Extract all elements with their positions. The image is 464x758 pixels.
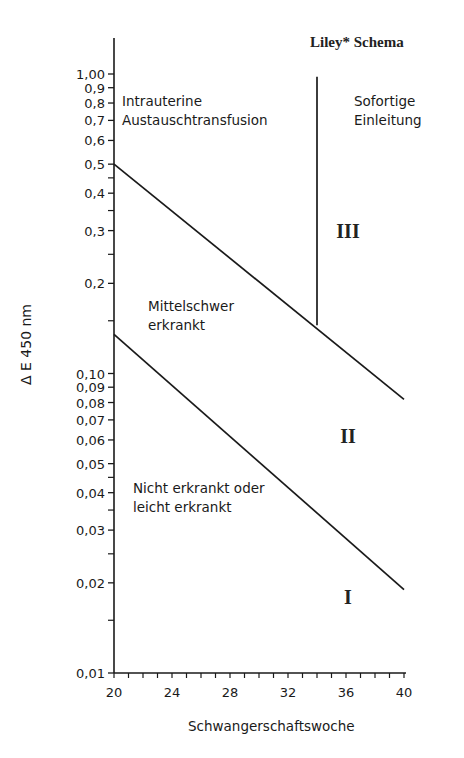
y-tick-label: 0,08 — [76, 396, 105, 411]
x-tick-label: 40 — [396, 685, 413, 700]
region-label-sofortige-einleitung: Sofortige Einleitung — [354, 92, 422, 130]
y-tick-label: 0,7 — [84, 113, 105, 128]
x-tick-label: 24 — [164, 685, 181, 700]
region-label-mittelschwer: Mittelschwer erkrankt — [148, 297, 234, 335]
x-tick-label: 28 — [222, 685, 239, 700]
y-tick-label: 0,6 — [84, 133, 105, 148]
upper-boundary-line — [114, 164, 404, 399]
region-label-intrauterine: Intrauterine Austauschtransfusion — [122, 92, 268, 130]
y-tick-label: 0,5 — [84, 157, 105, 172]
y-tick-label: 0,09 — [76, 380, 105, 395]
y-tick-label: 0,4 — [84, 186, 105, 201]
y-tick-label: 0,04 — [76, 486, 105, 501]
region-label-nicht-erkrankt: Nicht erkrankt oder leicht erkrankt — [133, 479, 265, 517]
y-tick-label: 0,9 — [84, 81, 105, 96]
y-tick-label: 0,02 — [76, 576, 105, 591]
y-tick-label: 0,03 — [76, 523, 105, 538]
y-tick-label: 0,2 — [84, 276, 105, 291]
zone-III-label: III — [336, 220, 360, 242]
y-tick-label: 0,06 — [76, 433, 105, 448]
y-tick-label: 0,05 — [76, 457, 105, 472]
y-tick-label: 0,07 — [76, 413, 105, 428]
y-tick-label: 0,3 — [84, 224, 105, 239]
y-axis-label: Δ E 450 nm — [18, 304, 34, 385]
zone-II-label: II — [340, 425, 356, 447]
x-tick-label: 20 — [106, 685, 123, 700]
zone-I-label: I — [344, 586, 352, 608]
zone-labels: IIIIII — [336, 220, 360, 608]
axes: 1,000,90,80,70,60,50,40,30,20,100,090,08… — [76, 38, 412, 700]
y-tick-label: 0,01 — [76, 666, 105, 681]
x-tick-label: 36 — [338, 685, 355, 700]
y-tick-label: 0,8 — [84, 96, 105, 111]
x-axis-label: Schwangerschaftswoche — [188, 718, 355, 734]
x-tick-label: 32 — [280, 685, 297, 700]
lower-boundary-line — [114, 334, 404, 589]
